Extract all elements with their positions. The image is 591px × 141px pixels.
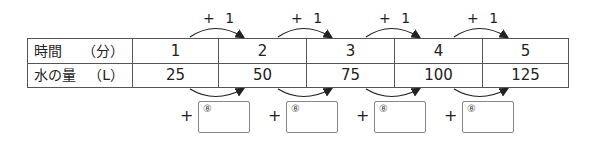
top-arrow-label: + 1 [379, 10, 413, 26]
answer-box-1[interactable]: ⑧ [198, 101, 250, 133]
table-cell: 2 [218, 39, 306, 64]
row-label: 水の量 [34, 67, 76, 83]
plus-sign: + [356, 106, 369, 125]
answer-box-2[interactable]: ⑧ [286, 101, 338, 133]
table-cell: 4 [394, 39, 482, 64]
question-number-mark: ⑧ [467, 103, 476, 114]
table-cell: 100 [394, 63, 482, 88]
top-arrow-4 [454, 29, 507, 38]
table-cell: 50 [218, 63, 306, 88]
bottom-arrow-1 [190, 89, 243, 97]
row-header: 水の量 （L） [28, 63, 132, 88]
table-row-water: 水の量 （L） 25 50 75 100 125 [28, 63, 568, 88]
table-cell: 75 [306, 63, 394, 88]
bottom-arrow-2 [278, 89, 331, 97]
data-table: 時間 （分） 1 2 3 4 5 水の量 （L） 25 50 75 100 12… [27, 38, 569, 88]
table-cell: 125 [482, 63, 568, 88]
table-cell: 25 [132, 63, 218, 88]
top-arrow-label: + 1 [467, 10, 501, 26]
row-unit: （分） [82, 39, 124, 63]
top-arrow-2 [278, 29, 331, 38]
plus-sign: + [180, 106, 193, 125]
top-arrow-label: + 1 [203, 10, 237, 26]
plus-sign: + [444, 106, 457, 125]
top-arrow-label: + 1 [291, 10, 325, 26]
answer-box-3[interactable]: ⑧ [374, 101, 426, 133]
table-cell: 1 [132, 39, 218, 64]
question-number-mark: ⑧ [203, 103, 212, 114]
row-header: 時間 （分） [28, 39, 132, 64]
row-label: 時間 [34, 43, 62, 59]
question-number-mark: ⑧ [291, 103, 300, 114]
row-unit: （L） [88, 63, 124, 87]
table-cell: 3 [306, 39, 394, 64]
top-arrow-3 [366, 29, 419, 38]
table-row-time: 時間 （分） 1 2 3 4 5 [28, 39, 568, 64]
answer-box-4[interactable]: ⑧ [462, 101, 514, 133]
question-number-mark: ⑧ [379, 103, 388, 114]
bottom-arrow-4 [454, 89, 507, 97]
table-cell: 5 [482, 39, 568, 64]
top-arrow-1 [190, 29, 243, 38]
plus-sign: + [268, 106, 281, 125]
bottom-arrow-3 [366, 89, 419, 97]
